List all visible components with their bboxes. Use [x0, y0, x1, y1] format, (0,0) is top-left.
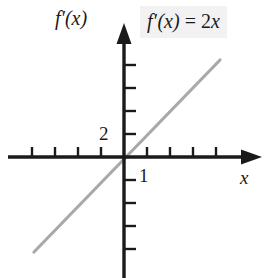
y-axis-ticks-below: [124, 180, 136, 249]
y-axis-arrowhead-icon: [117, 23, 132, 44]
equation-variable: x: [211, 10, 220, 32]
x-axis-arrowhead-icon: [241, 150, 262, 165]
x-axis-label: x: [240, 168, 248, 187]
derivative-line-graph-figure: f′(x) x 2 1 f′(x) = 2x: [0, 0, 271, 278]
plot-canvas: [0, 0, 271, 278]
y-axis-label: f′(x): [55, 8, 87, 28]
equation-annotation-box: f′(x) = 2x: [140, 6, 227, 38]
y-tick-label-2: 2: [99, 124, 109, 143]
y-axis-ticks-above: [124, 65, 136, 134]
x-tick-label-1: 1: [139, 166, 149, 185]
equation-equals-coefficient: = 2: [180, 10, 211, 32]
equation-argument: (x): [157, 10, 179, 32]
